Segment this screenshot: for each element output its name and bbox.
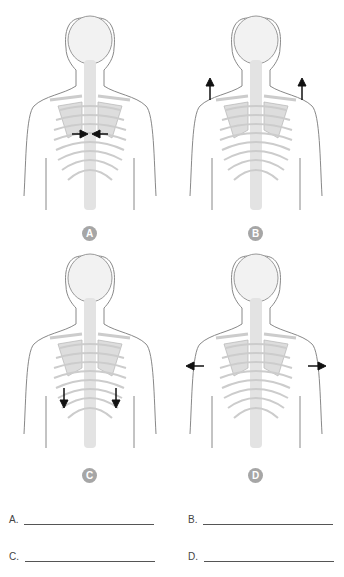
answer-label: D. xyxy=(188,551,198,562)
answer-label: C. xyxy=(9,551,19,562)
answer-line[interactable] xyxy=(24,523,154,525)
figure-b xyxy=(186,10,326,220)
answer-c[interactable]: C. xyxy=(9,551,155,562)
answer-b[interactable]: B. xyxy=(188,514,333,525)
answer-line[interactable] xyxy=(204,560,334,562)
answer-d[interactable]: D. xyxy=(188,551,334,562)
answer-a[interactable]: A. xyxy=(9,514,154,525)
figure-label-a: A xyxy=(82,226,97,241)
answer-label: A. xyxy=(9,514,18,525)
figure-label-b: B xyxy=(248,226,263,241)
figure-a xyxy=(20,10,160,220)
figure-c xyxy=(20,248,160,458)
answer-label: B. xyxy=(188,514,197,525)
answer-line[interactable] xyxy=(203,523,333,525)
figure-d xyxy=(186,248,326,458)
figure-label-c: C xyxy=(82,468,97,483)
answer-line[interactable] xyxy=(25,560,155,562)
figure-label-d: D xyxy=(248,468,263,483)
